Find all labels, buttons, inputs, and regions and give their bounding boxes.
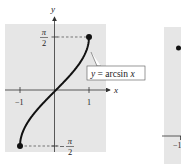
y-tick-label-denominator: 2 [42,38,46,48]
figure: x y −11 π2π2 y = arcsin x −1 [0,0,181,164]
endpoint [17,143,23,149]
x-axis-label: x [113,85,118,95]
endpoint [86,34,92,40]
x-tick-label: −1 [15,98,24,107]
y-tick-label-denominator: 2 [68,147,72,157]
y-tick-label-numerator: π [42,27,47,37]
second-endpoint [176,46,181,51]
y-tick-label-numerator: π [68,136,73,146]
y-axis-label: y [50,4,55,14]
x-tick-label: 1 [87,98,91,107]
annotation-label: y = arcsin x [90,69,135,79]
second-x-tick-label: −1 [173,141,181,150]
